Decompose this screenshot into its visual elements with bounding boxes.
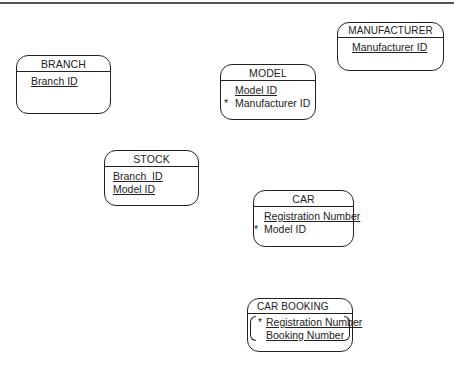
entity-title: MODEL [221, 65, 315, 81]
attribute: Model ID [109, 183, 194, 196]
attribute: Booking Number [252, 329, 348, 342]
attribute-name: Model ID [113, 183, 155, 196]
entity-car[interactable]: CAR Registration Number * Model ID [253, 190, 354, 247]
attribute-name: Booking Number [266, 329, 344, 342]
foreign-key-marker: * [224, 97, 232, 110]
entity-title: CAR [254, 191, 353, 207]
entity-model[interactable]: MODEL Model ID * Manufacturer ID [220, 64, 316, 120]
entity-branch[interactable]: BRANCH Branch ID [16, 55, 111, 114]
attribute: Branch ID [21, 75, 106, 88]
foreign-key-marker: * [254, 223, 262, 236]
attribute: Branch ID [109, 170, 194, 183]
attribute: * Model ID [258, 223, 349, 236]
attribute-name: Manufacturer ID [235, 97, 310, 110]
attribute-name: Manufacturer ID [352, 41, 427, 54]
entity-title: MANUFACTURER [338, 23, 443, 38]
attribute: * Manufacturer ID [225, 97, 311, 110]
attribute-name: Model ID [235, 84, 277, 97]
entity-title: CAR BOOKING [248, 299, 352, 314]
attribute: Manufacturer ID [342, 41, 439, 54]
attribute: Registration Number [258, 210, 349, 223]
entity-manufacturer[interactable]: MANUFACTURER Manufacturer ID [337, 22, 444, 71]
foreign-key-marker: * [258, 316, 266, 329]
attribute: * Registration Number [252, 316, 348, 329]
entity-car-booking[interactable]: CAR BOOKING * Registration Number Bookin… [247, 298, 353, 352]
entity-title: BRANCH [17, 56, 110, 72]
top-border-line [0, 2, 454, 4]
attribute: Model ID [225, 84, 311, 97]
entity-title: STOCK [105, 151, 198, 167]
attribute-name: Registration Number [266, 316, 362, 329]
attribute-name: Branch ID [113, 170, 163, 183]
attribute-name: Model ID [264, 223, 306, 236]
entity-stock[interactable]: STOCK Branch ID Model ID [104, 150, 199, 206]
attribute-name: Registration Number [264, 210, 360, 223]
attribute-name: Branch ID [31, 75, 78, 88]
